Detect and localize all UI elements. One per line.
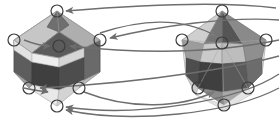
geometric-figure	[0, 0, 280, 127]
right-face-b2	[198, 62, 222, 92]
diagram-canvas	[0, 0, 280, 127]
right-face-m2	[200, 43, 222, 64]
